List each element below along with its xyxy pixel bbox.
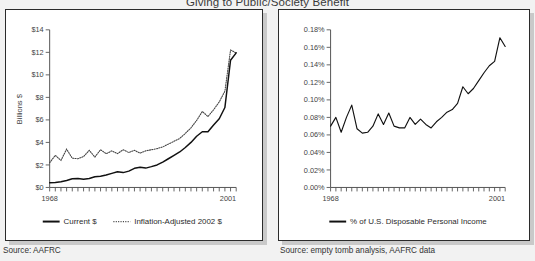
- x-tick-group-left: [50, 187, 237, 191]
- y-tick-label: 0.02%: [304, 166, 325, 175]
- x-axis-min-label-right: 1968: [322, 194, 338, 203]
- y-axis-right: 0.00%0.02%0.04%0.06%0.08%0.10%0.12%0.14%…: [304, 25, 331, 192]
- y-tick-group-right: 0.00%0.02%0.04%0.06%0.08%0.10%0.12%0.14%…: [304, 25, 331, 192]
- x-tick-group-right: [331, 187, 506, 191]
- figure-title: Giving to Public/Society Benefit: [0, 0, 535, 8]
- figure-root: Giving to Public/Society Benefit $0$2$4$…: [0, 0, 535, 261]
- y-tick-label: $0: [36, 183, 44, 192]
- y-tick-label: $12: [31, 48, 43, 57]
- legend-label: Current $: [64, 217, 98, 226]
- y-tick-label: 0.06%: [304, 130, 325, 139]
- legend-label: % of U.S. Disposable Personal Income: [350, 217, 487, 226]
- y-tick-label: 0.14%: [304, 60, 325, 69]
- y-tick-label: $14: [31, 25, 43, 34]
- series-line-inflation-adjusted: [50, 50, 237, 163]
- source-note-left: Source: AAFRC: [3, 246, 61, 255]
- series-line-current: [50, 53, 237, 183]
- x-axis-left: [50, 187, 237, 191]
- y-tick-label: 0.10%: [304, 95, 325, 104]
- y-tick-label: $10: [31, 70, 43, 79]
- y-tick-label: 0.12%: [304, 78, 325, 87]
- source-note-right: Source: empty tomb analysis, AAFRC data: [280, 246, 435, 255]
- y-axis-left: $0$2$4$6$8$10$12$14: [31, 25, 49, 192]
- x-axis-max-label-right: 2001: [489, 194, 505, 203]
- chart-svg-percent: 0.00%0.02%0.04%0.06%0.08%0.10%0.12%0.14%…: [279, 10, 529, 240]
- y-tick-label: $4: [36, 138, 44, 147]
- chart-panel-left: $0$2$4$6$8$10$12$14 Billions $ 1968 2001…: [5, 9, 263, 241]
- x-axis-min-label-left: 1968: [41, 194, 57, 203]
- y-tick-label: 0.04%: [304, 148, 325, 157]
- y-tick-label: $6: [36, 115, 44, 124]
- x-axis-max-label-left: 2001: [220, 194, 236, 203]
- y-tick-label: 0.18%: [304, 25, 325, 34]
- legend-right: % of U.S. Disposable Personal Income: [329, 217, 487, 226]
- chart-svg-billions: $0$2$4$6$8$10$12$14 Billions $ 1968 2001…: [6, 10, 262, 240]
- series-line-pct-dpi: [331, 38, 506, 133]
- y-tick-group-left: $0$2$4$6$8$10$12$14: [31, 25, 49, 192]
- y-tick-label: $8: [36, 93, 44, 102]
- x-axis-right: [331, 187, 506, 191]
- y-tick-label: 0.16%: [304, 43, 325, 52]
- legend-label: Inflation-Adjusted 2002 $: [134, 217, 222, 226]
- chart-panel-right: 0.00%0.02%0.04%0.06%0.08%0.10%0.12%0.14%…: [278, 9, 530, 241]
- y-tick-label: 0.08%: [304, 113, 325, 122]
- y-tick-label: 0.00%: [304, 183, 325, 192]
- legend-left: Current $Inflation-Adjusted 2002 $: [43, 217, 223, 226]
- y-tick-label: $2: [36, 161, 44, 170]
- y-axis-title-left: Billions $: [15, 93, 24, 124]
